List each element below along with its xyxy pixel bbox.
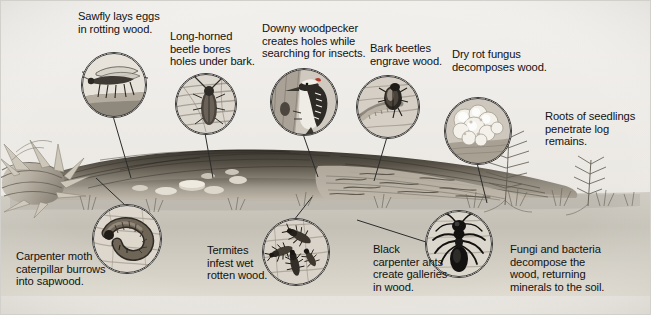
label-fungi-bacteria: Fungi and bacteria decompose the wood, r… <box>510 243 604 293</box>
label-sawfly: Sawfly lays eggs in rotting wood. <box>78 10 160 35</box>
bark-beetle-inset <box>356 75 420 139</box>
label-longhorn: Long-horned beetle bores holes under bar… <box>170 30 255 68</box>
downy-woodpecker-inset <box>270 68 338 136</box>
sawfly-inset <box>81 52 147 118</box>
label-woodpecker: Downy woodpecker creates holes while sea… <box>262 22 366 60</box>
label-roots: Roots of seedlings penetrate log remains… <box>545 110 635 148</box>
label-black-ants: Black carpenter ants create galleries in… <box>373 243 447 293</box>
label-carpenter-moth: Carpenter moth caterpillar burrows into … <box>16 250 106 288</box>
label-bark-beetles: Bark beetles engrave wood. <box>370 42 442 67</box>
termites-inset <box>262 218 330 286</box>
long-horned-beetle-inset <box>175 73 237 135</box>
dry-rot-fungus-inset <box>444 97 512 165</box>
label-termites: Termites infest wet rotten wood. <box>207 244 267 282</box>
log-decomposition-diagram: Sawfly lays eggs in rotting wood. Long-h… <box>0 0 651 315</box>
label-dry-rot: Dry rot fungus decomposes wood. <box>452 48 547 73</box>
